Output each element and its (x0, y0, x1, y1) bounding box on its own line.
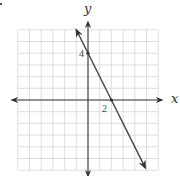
y-intercept-point (86, 52, 89, 55)
x-intercept-point (110, 98, 113, 101)
x-tick-label-2: 2 (102, 103, 107, 114)
y-tick-label-4: 4 (79, 48, 84, 59)
y-axis-label: y (84, 1, 91, 16)
coordinate-plane (0, 0, 180, 176)
x-axis-label: x (171, 91, 178, 106)
